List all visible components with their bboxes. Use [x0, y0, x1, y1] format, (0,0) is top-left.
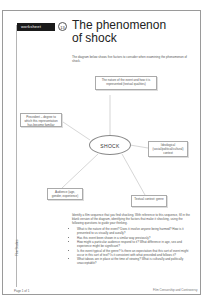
footer-text: Film Censorship and Controversy [153, 288, 198, 292]
question-item: What taboos are in place at the time of … [77, 257, 192, 265]
diagram-center-shock: SHOCK [89, 135, 131, 155]
instructions: Identify a film sequence that you find s… [72, 213, 192, 266]
diagram-node-top: The nature of the event and how it is re… [95, 76, 157, 90]
diagram-node-left: Precedent – degree to which this represe… [20, 113, 62, 127]
diagram-node-right: Ideological (social/political/cultural) … [148, 141, 188, 157]
side-label: Film Studies [15, 239, 19, 256]
question-item: Is the event typical of the genre? Is th… [77, 249, 192, 257]
question-item: Has this event been shown in a similar w… [77, 236, 192, 240]
page-number: Page 1 of 1 [14, 289, 29, 293]
question-item: How might a particular audience respond … [77, 240, 192, 248]
diagram-node-bottom-right: Textual context: genre [131, 195, 167, 207]
question-item: What is the nature of the event? Does it… [77, 227, 192, 235]
questions-list: What is the nature of the event? Does it… [72, 227, 192, 265]
instructions-lead: Identify a film sequence that you find s… [72, 213, 192, 225]
diagram-node-bottom-left: Audience (age, gender, experience) [47, 188, 83, 200]
